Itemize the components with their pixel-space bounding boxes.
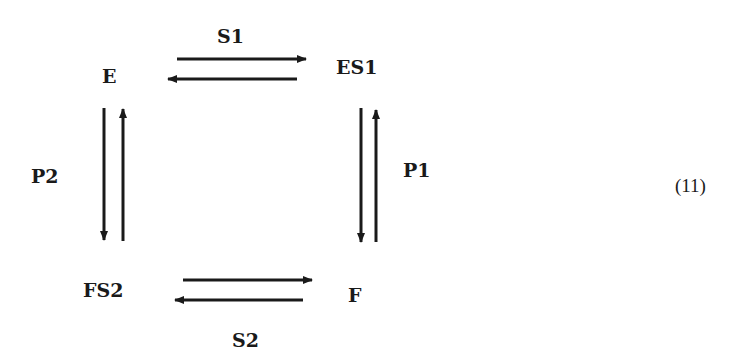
reaction-scheme-diagram: E ES1 F FS2 S1 P1 S2 P2 (11) [0,0,742,361]
edge-label-p2: P2 [31,167,59,186]
edge-label-s1: S1 [217,27,244,46]
edge-label-s2: S2 [232,331,259,350]
node-fs2: FS2 [83,281,123,300]
arrows-layer [0,0,742,361]
node-es1: ES1 [336,58,377,77]
node-f: F [348,286,362,305]
edge-label-p1: P1 [403,161,431,180]
equation-number: (11) [675,176,706,195]
node-e: E [102,67,116,86]
